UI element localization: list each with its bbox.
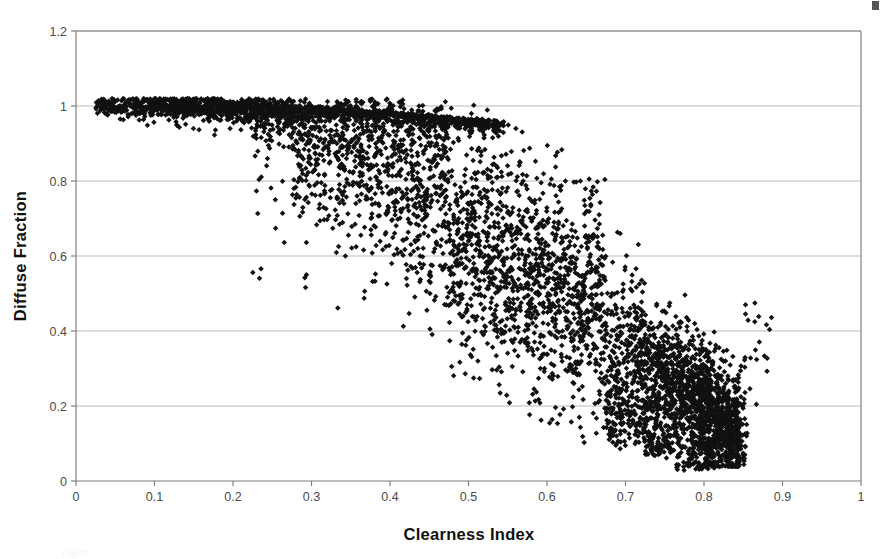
data-point (314, 222, 320, 228)
data-point (617, 446, 623, 452)
data-point (373, 243, 379, 249)
data-point (497, 390, 503, 396)
data-point (616, 316, 622, 322)
data-point (572, 243, 578, 249)
y-tick-label: 0.6 (50, 250, 67, 264)
data-point (405, 230, 411, 236)
data-point (280, 211, 286, 217)
data-point (561, 406, 567, 412)
data-point (520, 369, 526, 375)
data-point (506, 122, 512, 128)
data-point (422, 224, 428, 230)
data-point (303, 285, 309, 291)
data-point (499, 174, 505, 180)
data-point (390, 173, 396, 179)
data-point (597, 200, 603, 206)
data-point (257, 275, 263, 281)
data-point (551, 183, 557, 189)
data-point (556, 199, 562, 205)
data-point (515, 296, 521, 302)
data-point (366, 144, 372, 150)
data-point (624, 253, 630, 258)
data-point (477, 376, 483, 382)
data-point (414, 270, 420, 276)
data-point (470, 158, 476, 164)
x-tick-label: 0.8 (695, 490, 712, 504)
data-point (468, 296, 474, 302)
data-point (628, 305, 634, 311)
x-axis-title: Clearness Index (403, 525, 535, 543)
data-point (504, 246, 510, 252)
data-point (553, 164, 559, 170)
data-point (196, 127, 202, 133)
data-point (462, 172, 468, 178)
x-tick-label: 0.5 (460, 490, 477, 504)
data-point (505, 163, 511, 169)
data-point (507, 327, 513, 333)
data-point (580, 397, 586, 403)
data-point (317, 202, 323, 208)
data-point (250, 270, 256, 276)
y-tick-label: 0 (60, 475, 67, 489)
x-tick-label: 0.9 (774, 490, 791, 504)
data-point (629, 279, 635, 285)
data-point (352, 158, 358, 164)
data-point (512, 348, 517, 354)
data-point (505, 316, 511, 322)
data-point (443, 211, 449, 217)
data-point (459, 342, 465, 348)
data-point (485, 341, 491, 347)
x-tick-label: 0.3 (303, 490, 320, 504)
data-point (563, 178, 569, 184)
data-point (344, 156, 350, 162)
data-point (559, 343, 565, 349)
data-point (340, 152, 346, 158)
data-point (516, 325, 522, 331)
data-point (567, 286, 573, 292)
data-point (300, 209, 306, 215)
data-point (527, 146, 533, 152)
data-points-group (93, 96, 774, 473)
data-point (545, 143, 551, 149)
data-point (435, 223, 441, 229)
data-point (684, 328, 690, 334)
y-axis-title: Diffuse Fraction (11, 191, 29, 321)
data-point (227, 126, 233, 132)
data-point (191, 126, 197, 132)
data-point (764, 369, 770, 375)
data-point (560, 223, 566, 229)
data-point (500, 215, 506, 221)
data-point (564, 218, 570, 224)
data-point (571, 311, 577, 317)
data-point (570, 394, 576, 400)
data-point (380, 190, 386, 196)
data-point (499, 153, 505, 159)
data-point (575, 235, 581, 241)
data-point (590, 411, 596, 417)
data-point (553, 193, 559, 199)
data-point (599, 291, 605, 297)
data-point (377, 239, 383, 245)
data-point (420, 246, 426, 252)
data-point (369, 232, 375, 238)
data-point (335, 305, 341, 311)
data-point (570, 221, 576, 227)
data-point (491, 235, 497, 241)
data-point (505, 350, 511, 356)
data-point (472, 329, 478, 335)
data-point (452, 182, 458, 188)
data-point (238, 127, 244, 133)
data-point (623, 443, 629, 449)
data-point (578, 424, 584, 430)
data-point (469, 111, 475, 117)
data-point (610, 260, 616, 266)
data-point (332, 207, 338, 213)
data-point (491, 155, 497, 161)
data-point (384, 184, 390, 190)
data-point (418, 142, 424, 148)
data-point (404, 276, 410, 282)
data-point (636, 242, 642, 248)
data-point (451, 140, 457, 146)
data-point (415, 246, 421, 252)
data-point (707, 340, 713, 346)
